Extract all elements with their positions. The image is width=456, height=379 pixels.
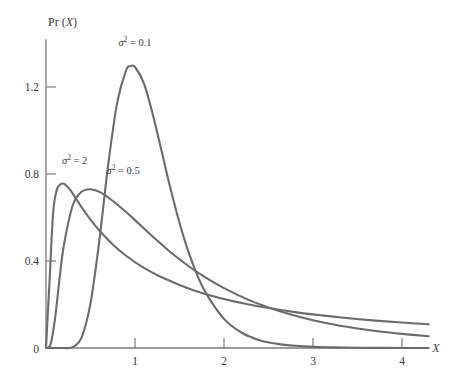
- y-tick-label-0: 0: [33, 343, 39, 355]
- series-value-2: = 2: [71, 155, 87, 166]
- series-label-sigma2-0.1: σ2 = 0.1: [118, 35, 151, 48]
- x-tick-label-3: 3: [310, 355, 316, 367]
- y-axis-title: Pr (X): [48, 15, 77, 29]
- series-value-0: = 0.1: [127, 37, 151, 48]
- chart-canvas: 1.2 0.8 0.4 0 1 2 3 4 Pr (X) X σ2 = 0.1 …: [0, 0, 456, 379]
- curve-sigma2-0.1: [46, 65, 429, 348]
- x-tick-label-4: 4: [399, 355, 405, 367]
- y-axis-ticks: 1.2 0.8 0.4 0: [25, 81, 56, 355]
- x-tick-label-2: 2: [221, 355, 227, 367]
- series-label-sigma2-0.5: σ2 = 0.5: [107, 163, 140, 176]
- log-normal-distribution-figure: 1.2 0.8 0.4 0 1 2 3 4 Pr (X) X σ2 = 0.1 …: [0, 0, 456, 379]
- y-tick-label-0.8: 0.8: [25, 168, 40, 180]
- series-value-1: = 0.5: [115, 165, 139, 176]
- y-axis-title-prefix: Pr (: [48, 15, 66, 29]
- series-label-sigma2-2: σ2 = 2: [62, 153, 87, 166]
- x-axis-title: X: [431, 341, 440, 355]
- y-tick-label-1.2: 1.2: [25, 81, 40, 93]
- y-axis-title-suffix: ): [73, 15, 77, 29]
- y-tick-label-0.4: 0.4: [25, 255, 40, 267]
- x-tick-label-1: 1: [132, 355, 138, 367]
